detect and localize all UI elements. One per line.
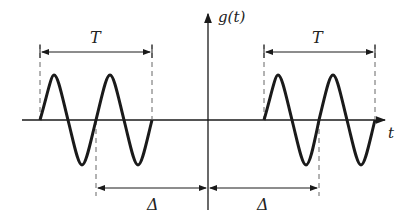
x-axis-label: t [388,124,395,142]
y-axis-label: g(t) [218,8,245,26]
shift-label-left: Δ [146,195,159,214]
shift-label-right: Δ [256,195,269,214]
period-label-left: T [90,28,102,47]
period-label-right: T [312,28,324,47]
signal-diagram: g(t) t T T Δ Δ [0,0,414,223]
